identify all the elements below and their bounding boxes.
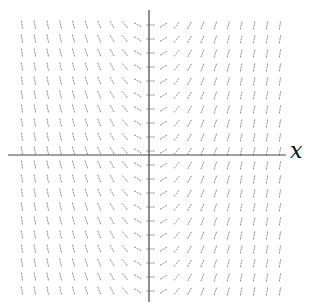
slope-segment [72, 21, 74, 30]
slope-segment [266, 63, 268, 72]
slope-segment [240, 161, 242, 170]
slope-segment [201, 21, 204, 29]
slope-segment [279, 133, 280, 142]
slope-segment [227, 119, 229, 128]
slope-segment [214, 245, 217, 254]
slope-segment [122, 78, 128, 85]
slope-segment [47, 21, 49, 30]
slope-segment [98, 77, 101, 85]
slope-segment [240, 273, 242, 282]
slope-segment [160, 107, 168, 112]
slope-segment [240, 21, 242, 30]
slope-segment [253, 259, 255, 268]
slope-segment [279, 77, 280, 86]
slope-segment [98, 287, 101, 295]
slope-segment [47, 259, 49, 268]
slope-segment [72, 203, 74, 212]
slope-segment [240, 105, 242, 114]
slope-segment [266, 21, 268, 30]
slope-segment [174, 288, 180, 295]
slope-segment [188, 147, 192, 155]
slope-segment [85, 175, 88, 184]
slope-segment [34, 189, 36, 198]
slope-segment [214, 91, 217, 100]
slope-segment [98, 175, 101, 183]
slope-segment [201, 147, 204, 155]
slope-segment [134, 289, 142, 294]
slope-segment [21, 175, 22, 184]
slope-segment [240, 77, 242, 86]
slope-segment [34, 77, 36, 86]
slope-segment [72, 217, 74, 226]
slope-segment [240, 203, 242, 212]
slope-segment [85, 273, 88, 282]
slope-segment [122, 120, 128, 127]
slope-segment [110, 63, 114, 71]
slope-segment [188, 119, 192, 127]
slope-segment [60, 273, 62, 282]
slope-segment [98, 21, 101, 29]
slope-segment [134, 219, 142, 224]
slope-segment [134, 205, 142, 210]
slope-segment [201, 91, 204, 99]
slope-segment [34, 175, 36, 184]
slope-segment [188, 203, 192, 211]
slope-segment [85, 91, 88, 100]
slope-segment [174, 204, 180, 211]
slope-segment [134, 261, 142, 266]
slope-segment [253, 147, 255, 156]
slope-segment [201, 175, 204, 183]
slope-segment [160, 163, 168, 168]
slope-segment [60, 133, 62, 142]
slope-segment [110, 259, 114, 267]
slope-segment [160, 37, 168, 42]
slope-segment [279, 63, 280, 72]
slope-segment [134, 275, 142, 280]
slope-segment [188, 287, 192, 295]
slope-segment [72, 259, 74, 268]
slope-segment [110, 161, 114, 169]
slope-segment [21, 105, 22, 114]
slope-segment [240, 63, 242, 72]
slope-segment [122, 190, 128, 197]
slope-segment [47, 133, 49, 142]
slope-segment [279, 287, 280, 296]
slope-segment [98, 273, 101, 281]
slope-segment [174, 22, 180, 29]
slope-segment [201, 273, 204, 281]
slope-segment [110, 175, 114, 183]
slope-segment [47, 245, 49, 254]
slope-segment [266, 133, 268, 142]
slope-segment [214, 49, 217, 58]
slope-segment [98, 259, 101, 267]
slope-segment [21, 119, 22, 128]
slope-segment [60, 77, 62, 86]
slope-segment [253, 133, 255, 142]
slope-segment [60, 105, 62, 114]
slope-segment [85, 49, 88, 58]
slope-segment [34, 231, 36, 240]
slope-segment [98, 245, 101, 253]
slope-segment [122, 64, 128, 71]
slope-segment [85, 105, 88, 114]
slope-segment [227, 259, 229, 268]
slope-segment [110, 231, 114, 239]
slope-segment [214, 21, 217, 30]
slope-segment [21, 161, 22, 170]
slope-segment [253, 203, 255, 212]
slope-segment [85, 245, 88, 254]
slope-segment [240, 119, 242, 128]
slope-segment [160, 51, 168, 56]
slope-segment [134, 149, 142, 154]
slope-segment [72, 287, 74, 296]
slope-segment [214, 287, 217, 296]
slope-segment [174, 190, 180, 197]
slope-segment [98, 35, 101, 43]
slope-segment [110, 35, 114, 43]
slope-segment [134, 65, 142, 70]
slope-segment [214, 175, 217, 184]
slope-segment [160, 233, 168, 238]
slope-segment [253, 63, 255, 72]
slope-segment [122, 36, 128, 43]
slope-segment [85, 189, 88, 198]
